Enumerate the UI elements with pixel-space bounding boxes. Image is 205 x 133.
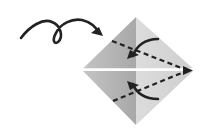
- diagram-canvas: [0, 0, 205, 133]
- turn-over-arrow-icon: [21, 20, 103, 43]
- center-gap: [80, 69, 196, 72]
- origami-diagram: [0, 0, 205, 133]
